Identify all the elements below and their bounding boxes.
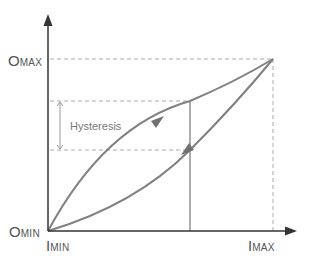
upper-curve-arrow-icon <box>151 116 164 128</box>
omin-label: OMIN <box>9 224 40 240</box>
omax-label: OMAX <box>8 53 42 69</box>
lower-curve <box>48 59 273 231</box>
guide-lines <box>50 59 273 231</box>
hysteresis-span-arrow <box>57 102 63 149</box>
hysteresis-label: Hysteresis <box>70 121 121 132</box>
imin-label: IMIN <box>46 238 69 254</box>
imax-label: IMAX <box>248 238 275 254</box>
upper-curve <box>48 59 273 231</box>
hysteresis-curves <box>48 59 273 231</box>
hysteresis-diagram <box>0 0 310 263</box>
